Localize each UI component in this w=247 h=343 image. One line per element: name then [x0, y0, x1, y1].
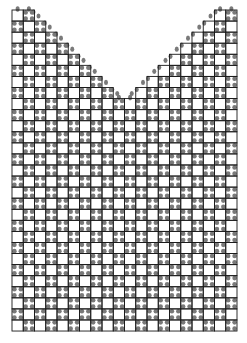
stitch-dot-icon: [232, 77, 237, 82]
stitch-dot-icon: [136, 165, 141, 170]
stitch-dot-icon: [80, 271, 85, 276]
chart-cell: [57, 298, 68, 309]
chart-cell: [226, 287, 237, 298]
chart-cell: [68, 309, 79, 320]
stitch-dot-icon: [165, 77, 170, 82]
stitch-dot-icon: [187, 127, 192, 132]
chart-cell: [136, 132, 147, 143]
stitch-dot-icon: [147, 154, 152, 159]
chart-cell: [203, 265, 214, 276]
stitch-dot-icon: [232, 298, 237, 303]
stitch-dot-icon: [102, 249, 107, 254]
stitch-dot-icon: [131, 138, 136, 143]
stitch-dot-icon: [57, 315, 62, 320]
stitch-dot-icon: [102, 160, 107, 165]
stitch-dot-icon: [52, 238, 57, 243]
stitch-dot-icon: [23, 143, 28, 148]
stitch-dot-icon: [147, 182, 152, 187]
stitch-dot-icon: [46, 326, 51, 331]
stitch-dot-icon: [46, 320, 51, 325]
stitch-dot-icon: [131, 243, 136, 248]
stitch-dot-icon: [136, 304, 141, 309]
chart-cell: [226, 65, 237, 76]
stitch-dot-icon: [23, 232, 28, 237]
stitch-dot-icon: [41, 110, 46, 115]
stitch-dot-icon: [68, 127, 73, 132]
chart-cell: [91, 198, 102, 209]
stitch-dot-icon: [41, 88, 46, 93]
stitch-dot-icon: [165, 232, 170, 237]
stitch-dot-icon: [215, 72, 220, 77]
stitch-dot-icon: [41, 50, 46, 55]
stitch-dot-icon: [136, 171, 141, 176]
stitch-dot-icon: [102, 88, 107, 93]
stitch-dot-icon: [80, 287, 85, 292]
stitch-dot-icon: [86, 293, 91, 298]
stitch-dot-icon: [158, 105, 163, 110]
stitch-dot-icon: [232, 193, 237, 198]
stitch-dot-icon: [35, 65, 40, 70]
stitch-dot-icon: [232, 83, 237, 88]
stitch-dot-icon: [80, 94, 85, 99]
chart-cell: [46, 220, 57, 231]
stitch-dot-icon: [19, 182, 24, 187]
stitch-dot-icon: [210, 187, 215, 192]
stitch-dot-icon: [203, 187, 208, 192]
stitch-dot-icon: [46, 187, 51, 192]
stitch-dot-icon: [232, 282, 237, 287]
chart-cell: [102, 121, 113, 132]
stitch-dot-icon: [23, 304, 28, 309]
neckline-dot-icon: [197, 24, 201, 29]
stitch-dot-icon: [109, 94, 114, 99]
stitch-dot-icon: [91, 254, 96, 259]
stitch-dot-icon: [86, 271, 91, 276]
stitch-dot-icon: [75, 232, 80, 237]
stitch-dot-icon: [221, 132, 226, 137]
stitch-dot-icon: [12, 116, 17, 121]
stitch-dot-icon: [154, 293, 159, 298]
stitch-dot-icon: [125, 160, 130, 165]
stitch-dot-icon: [64, 110, 69, 115]
stitch-dot-icon: [181, 143, 186, 148]
chart-cell: [170, 76, 181, 87]
chart-cell: [12, 231, 23, 242]
stitch-dot-icon: [19, 50, 24, 55]
stitch-dot-icon: [57, 160, 62, 165]
chart-cell: [23, 87, 34, 98]
stitch-dot-icon: [226, 127, 231, 132]
stitch-dot-icon: [52, 216, 57, 221]
stitch-dot-icon: [97, 127, 102, 132]
stitch-dot-icon: [57, 309, 62, 314]
stitch-dot-icon: [199, 249, 204, 254]
stitch-dot-icon: [199, 309, 204, 314]
stitch-dot-icon: [203, 77, 208, 82]
stitch-dot-icon: [91, 149, 96, 154]
stitch-dot-icon: [41, 27, 46, 32]
stitch-dot-icon: [30, 143, 35, 148]
stitch-dot-icon: [154, 154, 159, 159]
stitch-dot-icon: [203, 209, 208, 214]
stitch-dot-icon: [30, 260, 35, 265]
stitch-dot-icon: [125, 227, 130, 232]
stitch-dot-icon: [154, 265, 159, 270]
stitch-dot-icon: [176, 271, 181, 276]
stitch-dot-icon: [226, 282, 231, 287]
stitch-dot-icon: [232, 10, 237, 15]
stitch-dot-icon: [165, 121, 170, 126]
stitch-dot-icon: [75, 282, 80, 287]
chart-cell: [102, 165, 113, 176]
stitch-dot-icon: [23, 209, 28, 214]
stitch-dot-icon: [232, 143, 237, 148]
chart-cell: [12, 121, 23, 132]
stitch-dot-icon: [203, 99, 208, 104]
stitch-dot-icon: [57, 220, 62, 225]
chart-cell: [80, 320, 91, 331]
stitch-dot-icon: [199, 265, 204, 270]
chart-cell: [46, 309, 57, 320]
stitch-dot-icon: [210, 32, 215, 37]
stitch-dot-icon: [226, 238, 231, 243]
stitch-dot-icon: [221, 154, 226, 159]
stitch-dot-icon: [131, 160, 136, 165]
stitch-dot-icon: [23, 77, 28, 82]
stitch-dot-icon: [68, 260, 73, 265]
